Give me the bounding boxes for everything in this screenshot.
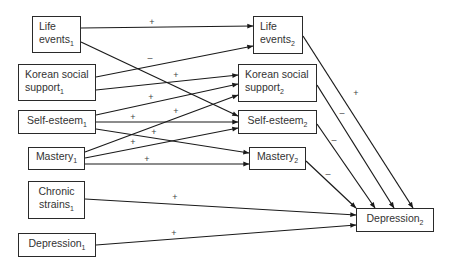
node-label-line: events2 <box>260 33 295 50</box>
node-label-text: strains <box>39 198 70 210</box>
path-sign-label: + <box>151 128 156 137</box>
node-label-text: Mastery <box>257 150 294 162</box>
node-label-text: Depression <box>366 212 419 224</box>
node-label-line: Mastery1 <box>36 150 77 167</box>
node-self1: Self-esteem1 <box>18 110 96 134</box>
path-sign-label: + <box>130 113 135 122</box>
node-mastery1: Mastery1 <box>28 147 85 170</box>
node-label-line: Depression2 <box>366 212 423 229</box>
path-sign-label: + <box>149 18 154 27</box>
time-subscript: 2 <box>291 40 295 47</box>
node-label-line: support1 <box>25 81 64 98</box>
path-sign-label: + <box>353 89 358 98</box>
node-label-text: Mastery <box>36 150 73 162</box>
path-sign-label: + <box>173 71 178 80</box>
path-sign-label: – <box>325 170 330 179</box>
node-label-text: events <box>39 33 70 45</box>
path-sign-label: + <box>130 138 135 147</box>
path-diagram: +–++++++++++––– Lifeevents1Korean social… <box>0 0 453 261</box>
node-label-line: Life <box>260 20 277 33</box>
time-subscript: 1 <box>70 205 74 212</box>
path-sign-label: – <box>331 136 336 145</box>
node-label-text: Korean social <box>25 68 89 80</box>
node-label-text: Chronic <box>38 185 74 197</box>
node-label-line: support2 <box>245 81 284 98</box>
node-label-line: Chronic <box>38 185 74 198</box>
node-label-line: Self-esteem1 <box>27 114 87 131</box>
node-label-line: Mastery2 <box>257 150 298 167</box>
node-label-text: Self-esteem <box>27 114 83 126</box>
node-label-line: Depression1 <box>28 237 85 254</box>
node-label-line: events1 <box>39 33 74 50</box>
node-label-text: Depression <box>28 237 81 249</box>
node-label-line: Korean social <box>245 68 309 81</box>
node-label-text: events <box>260 33 291 45</box>
node-label-text: support <box>245 81 280 93</box>
path-sign-label: + <box>171 229 176 238</box>
time-subscript: 1 <box>83 121 87 128</box>
node-depression2: Depression2 <box>356 208 434 232</box>
time-subscript: 1 <box>70 40 74 47</box>
arrow-korean1-to-korean2 <box>96 75 238 90</box>
time-subscript: 2 <box>304 121 308 128</box>
node-label-line: strains1 <box>39 198 74 215</box>
node-label-text: Life <box>39 20 56 32</box>
path-sign-label: + <box>172 193 177 202</box>
node-korean2: Korean socialsupport2 <box>238 64 317 102</box>
path-sign-label: + <box>144 155 149 164</box>
arrow-chronic1-to-depression2 <box>85 199 356 215</box>
path-sign-label: + <box>148 93 153 102</box>
arrow-self1-to-korean2 <box>96 84 238 115</box>
node-chronic1: Chronicstrains1 <box>28 181 85 219</box>
node-label-text: support <box>25 81 60 93</box>
time-subscript: 2 <box>280 88 284 95</box>
time-subscript: 1 <box>73 157 77 164</box>
node-life2: Lifeevents2 <box>253 16 303 54</box>
arrow-life1-to-life2 <box>81 26 253 28</box>
time-subscript: 2 <box>420 219 424 226</box>
node-self2: Self-esteem2 <box>238 110 317 134</box>
node-label-line: Korean social <box>25 68 89 81</box>
arrow-life2-to-depression2 <box>303 36 413 208</box>
time-subscript: 1 <box>60 88 64 95</box>
path-sign-label: – <box>147 54 152 63</box>
node-life1: Lifeevents1 <box>32 16 81 53</box>
node-mastery2: Mastery2 <box>249 147 306 170</box>
node-label-text: Korean social <box>245 68 309 80</box>
path-sign-label: + <box>173 107 178 116</box>
time-subscript: 2 <box>294 157 298 164</box>
arrow-self2-to-depression2 <box>317 124 375 208</box>
node-depression1: Depression1 <box>18 233 96 257</box>
node-label-line: Life <box>39 20 56 33</box>
time-subscript: 1 <box>82 244 86 251</box>
path-sign-label: – <box>339 109 344 118</box>
node-label-line: Self-esteem2 <box>248 114 308 131</box>
arrow-korean2-to-depression2 <box>317 85 394 208</box>
arrow-depression1-to-depression2 <box>96 225 356 245</box>
arrow-mastery2-to-depression2 <box>306 161 356 208</box>
node-label-text: Self-esteem <box>248 114 304 126</box>
node-korean1: Korean socialsupport1 <box>18 64 96 101</box>
node-label-text: Life <box>260 20 277 32</box>
